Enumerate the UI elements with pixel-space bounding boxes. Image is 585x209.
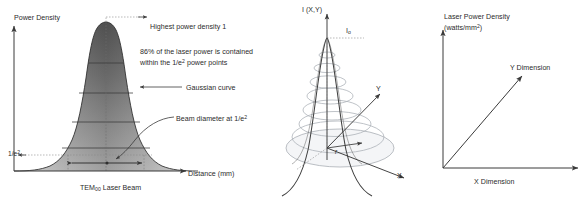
radius-label: r	[335, 147, 337, 156]
power-fraction-line1: 86% of the laser power is contained	[140, 48, 253, 56]
caption-tem-text: TEM	[80, 184, 95, 192]
three-d-intensity-graphic	[280, 0, 430, 209]
beam-diameter-anchor-dot	[106, 162, 109, 165]
y-axis-label-units-post: )	[480, 24, 482, 32]
caption-tem-tail: Laser Beam	[101, 184, 141, 192]
peak-intensity-label: Io	[346, 27, 351, 37]
power-fraction-line2-pre: within the 1/e	[140, 59, 182, 67]
y-axis-label: Power Density	[14, 14, 60, 23]
diagonal-dimension-label: Y Dimension	[510, 64, 550, 73]
y-axis-label: Y	[376, 85, 381, 94]
figure-caption-tem00: TEM00 Laser Beam	[80, 184, 141, 194]
intensity-axis-label: I (X,Y)	[302, 6, 322, 15]
gaussian-beam-profile-panel: Power Density Distance (mm) 1/e2 TEM00 L…	[0, 0, 290, 209]
gaussian-profile-graphic	[0, 0, 290, 209]
y-axis-label: Laser Power Density(watts/mm2)	[444, 13, 574, 33]
power-density-axes-panel: Laser Power Density(watts/mm2) Y Dimensi…	[412, 0, 585, 209]
contour-ellipse-5	[310, 76, 346, 88]
annotation-gaussian-curve: Gaussian curve	[186, 84, 236, 93]
y-axis-label-line1: Laser Power Density	[444, 13, 510, 21]
y-tick-label-exponent: 2	[17, 149, 20, 155]
three-d-intensity-panel: I (X,Y) Io Y X r	[280, 0, 430, 209]
y-axis-label-units-pre: (watts/mm	[444, 24, 477, 32]
peak-intensity-subscript: o	[348, 29, 351, 35]
x-axis-label: X	[397, 172, 402, 181]
diagonal-dimension-arrow	[443, 76, 522, 168]
annotation-peak-power: Highest power density 1	[150, 23, 226, 32]
beam-diameter-text: Beam diameter at 1/e	[176, 115, 244, 123]
beam-diameter-exponent: 2	[244, 114, 247, 120]
y-tick-label-text: 1/e	[8, 150, 17, 157]
x-axis-label: Distance (mm)	[188, 170, 234, 179]
x-axis-label: X Dimension	[474, 178, 514, 187]
annotation-beam-diameter: Beam diameter at 1/e2	[176, 113, 247, 124]
annotation-power-fraction: 86% of the laser power is containedwithi…	[140, 48, 262, 68]
y-tick-label-one-over-e2: 1/e2	[8, 148, 20, 158]
power-fraction-line2-post: power points	[185, 59, 227, 67]
